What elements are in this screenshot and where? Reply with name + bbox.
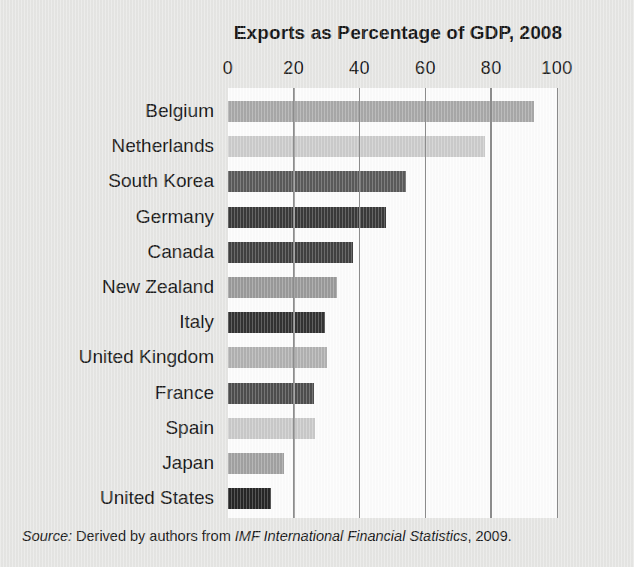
gridline-80 <box>490 88 492 518</box>
category-label-spain: Spain <box>165 417 214 438</box>
category-label-netherlands: Netherlands <box>112 135 214 156</box>
x-tick-label-100: 100 <box>541 58 573 79</box>
x-tick-label-80: 80 <box>481 58 502 79</box>
exports-gdp-figure: Exports as Percentage of GDP, 2008 02040… <box>0 0 634 567</box>
chart-title: Exports as Percentage of GDP, 2008 <box>228 22 568 44</box>
source-publication: IMF International Financial Statistics <box>235 528 468 544</box>
bar-japan <box>228 453 284 474</box>
category-label-belgium: Belgium <box>145 100 214 121</box>
x-tick-label-0: 0 <box>223 58 234 79</box>
source-text-before: Derived by authors from <box>76 528 231 544</box>
bar-united-kingdom <box>228 347 327 368</box>
category-label-united-kingdom: United Kingdom <box>79 346 214 367</box>
plot-area <box>228 88 558 518</box>
category-label-france: France <box>155 382 214 403</box>
bar-belgium <box>228 101 534 122</box>
category-label-united-states: United States <box>100 487 214 508</box>
bar-new-zealand <box>228 277 337 298</box>
x-axis-tick-labels: 020406080100 <box>228 58 557 84</box>
gridline-40 <box>359 88 361 518</box>
category-label-south-korea: South Korea <box>108 170 214 191</box>
bars-layer <box>228 88 557 518</box>
x-tick-label-60: 60 <box>415 58 436 79</box>
x-tick-label-40: 40 <box>349 58 370 79</box>
bar-south-korea <box>228 171 406 192</box>
category-label-new-zealand: New Zealand <box>102 276 214 297</box>
bar-spain <box>228 418 315 439</box>
gridline-60 <box>425 88 427 518</box>
category-label-germany: Germany <box>136 206 214 227</box>
source-label: Source: <box>22 528 72 544</box>
gridline-20 <box>293 88 295 518</box>
bar-france <box>228 383 314 404</box>
source-note: Source: Derived by authors from IMF Inte… <box>22 528 512 544</box>
bar-netherlands <box>228 136 485 157</box>
bar-germany <box>228 207 386 228</box>
source-text-after: , 2009. <box>467 528 511 544</box>
bar-canada <box>228 242 353 263</box>
category-axis-labels: BelgiumNetherlandsSouth KoreaGermanyCana… <box>0 88 222 518</box>
bar-united-states <box>228 488 271 509</box>
category-label-italy: Italy <box>179 311 214 332</box>
bar-italy <box>228 312 325 333</box>
category-label-japan: Japan <box>162 452 214 473</box>
x-tick-label-20: 20 <box>283 58 304 79</box>
category-label-canada: Canada <box>147 241 214 262</box>
